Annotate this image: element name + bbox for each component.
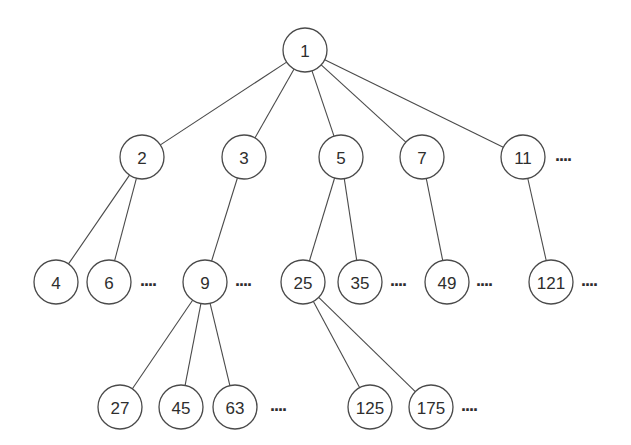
node-label: 25 (294, 274, 313, 293)
edge-2-4 (69, 175, 130, 264)
edge-25-175 (319, 297, 416, 391)
edge-3-9 (212, 178, 238, 261)
node-label: 27 (111, 399, 130, 418)
node-label: 7 (417, 149, 426, 168)
tree-node-125: 125 (348, 385, 392, 429)
tree-node-5: 5 (319, 135, 363, 179)
node-label: 125 (356, 399, 384, 418)
tree-node-3: 3 (222, 135, 266, 179)
node-label: 6 (104, 274, 113, 293)
edge-2-6 (115, 178, 137, 260)
ellipsis-continuation: .... (235, 270, 251, 290)
edges-layer (69, 60, 547, 392)
node-label: 11 (514, 149, 532, 168)
edge-5-35 (344, 179, 356, 260)
node-label: 3 (239, 149, 248, 168)
node-label: 4 (51, 274, 60, 293)
ellipsis-continuation: .... (581, 270, 597, 290)
tree-node-121: 121 (529, 260, 573, 304)
edge-5-25 (309, 178, 334, 261)
tree-node-25: 25 (281, 260, 325, 304)
node-label: 175 (417, 399, 445, 418)
tree-node-9: 9 (183, 260, 227, 304)
edge-9-63 (210, 303, 230, 385)
tree-node-1: 1 (283, 28, 327, 72)
ellipsis-continuation: .... (461, 395, 477, 415)
node-label: 121 (537, 274, 565, 293)
node-label: 35 (351, 274, 370, 293)
node-label: 49 (438, 274, 457, 293)
node-label: 5 (336, 149, 345, 168)
ellipsis-continuation: .... (270, 395, 286, 415)
ellipsis-continuation: .... (476, 270, 492, 290)
ellipsis-continuation: .... (555, 145, 571, 165)
edge-1-5 (312, 71, 334, 136)
tree-node-49: 49 (425, 260, 469, 304)
node-label: 2 (137, 149, 146, 168)
tree-node-11: 11 (501, 135, 545, 179)
node-label: 1 (300, 42, 309, 61)
tree-node-35: 35 (338, 260, 382, 304)
tree-node-45: 45 (159, 385, 203, 429)
tree-diagram: 1235711469253549121274563125175 ........… (0, 0, 631, 445)
tree-node-63: 63 (213, 385, 257, 429)
edge-1-11 (325, 60, 504, 148)
tree-node-4: 4 (34, 260, 78, 304)
ellipsis-continuation: .... (390, 270, 406, 290)
edge-11-121 (528, 179, 546, 261)
tree-node-2: 2 (120, 135, 164, 179)
edge-1-2 (160, 62, 286, 145)
nodes-layer: 1235711469253549121274563125175 (34, 28, 573, 429)
edge-9-27 (132, 300, 192, 389)
edge-7-49 (426, 179, 442, 261)
ellipsis-continuation: .... (140, 270, 156, 290)
tree-node-175: 175 (409, 385, 453, 429)
node-label: 63 (226, 399, 245, 418)
edge-9-45 (185, 304, 201, 386)
edge-1-7 (321, 65, 406, 142)
node-label: 9 (200, 274, 209, 293)
tree-node-6: 6 (87, 260, 131, 304)
node-label: 45 (172, 399, 191, 418)
tree-diagram-svg: 1235711469253549121274563125175 ........… (0, 0, 631, 445)
tree-node-27: 27 (98, 385, 142, 429)
tree-node-7: 7 (400, 135, 444, 179)
